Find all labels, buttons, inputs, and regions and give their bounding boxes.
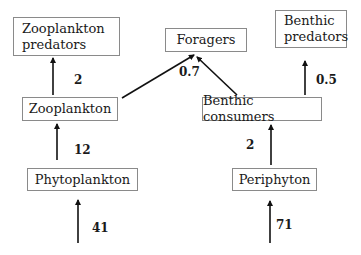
node-periphyton: Periphyton [232, 168, 317, 191]
node-label: Zooplankton predators [22, 21, 105, 53]
node-phytoplankton: Phytoplankton [27, 168, 138, 191]
node-label: Foragers [176, 32, 235, 48]
flow-label-benthic-predators: 0.5 [316, 73, 337, 87]
node-foragers: Foragers [165, 28, 247, 52]
flow-label-benthic-consumers: 2 [246, 138, 254, 152]
node-label: Zooplankton [29, 101, 112, 117]
node-zooplankton: Zooplankton [22, 97, 118, 121]
flow-label-zooplankton-predators: 2 [74, 73, 82, 87]
node-zooplankton-predators: Zooplankton predators [13, 17, 120, 56]
node-label: Phytoplankton [35, 172, 130, 188]
flow-label-phytoplankton-input: 41 [92, 221, 109, 235]
node-benthic-consumers: Benthic consumers [202, 97, 322, 121]
flow-label-periphyton-input: 71 [276, 218, 293, 232]
node-benthic-predators: Benthic predators [275, 10, 347, 48]
node-label: Periphyton [239, 172, 311, 188]
arrow-benthic-consumers-to-foragers [197, 57, 237, 95]
node-label: Benthic consumers [203, 93, 321, 125]
flow-label-zooplankton: 12 [74, 143, 91, 157]
flow-label-foragers: 0.7 [179, 65, 200, 79]
node-label: Benthic predators [284, 13, 348, 45]
